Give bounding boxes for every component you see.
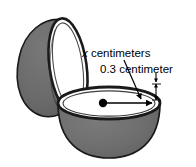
bowl-diagram-svg: x centimeters 0.3 centimeter [0,0,196,167]
bowl-body [58,87,160,158]
thickness-label: 0.3 centimeter [100,63,173,75]
geometry-figure: x centimeters 0.3 centimeter [0,0,196,167]
thickness-units-text: centimeter [116,63,173,75]
thickness-value-text: 0.3 [100,63,116,75]
radius-label: x centimeters [81,47,151,59]
radius-units-text: centimeters [88,47,151,59]
